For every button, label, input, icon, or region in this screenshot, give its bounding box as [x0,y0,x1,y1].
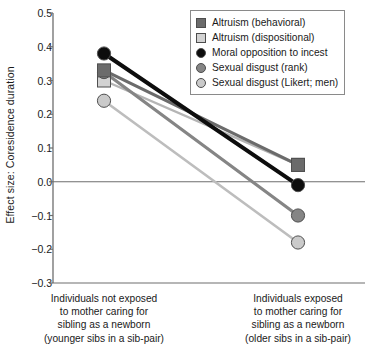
data-point-circle [97,94,110,107]
x-axis-label-line: sibling as a newborn [14,318,194,331]
legend-square-marker-icon [196,33,206,43]
line-chart: Effect size: Coresidence duration 0.50.4… [0,0,367,357]
legend-circle-marker-icon [196,48,206,58]
x-axis-label-line: Individuals not exposed [14,292,194,305]
legend-item-label: Sexual disgust (rank) [212,62,308,73]
x-axis-tick-labels: Individuals not exposedto mother caring … [0,288,367,354]
legend-item[interactable]: Sexual disgust (Likert; men) [196,75,338,90]
x-axis-label-line: Individuals exposed [208,292,367,305]
legend-item-label: Altruism (behavioral) [212,17,305,28]
x-axis-category-label: Individuals exposedto mother caring fors… [208,292,367,345]
x-axis-label-line: (older sibs in a sib-pair) [208,332,367,345]
data-point-square [98,64,111,77]
legend-item[interactable]: Altruism (dispositional) [196,30,338,45]
data-point-circle [97,47,110,60]
legend: Altruism (behavioral)Altruism (dispositi… [190,10,345,95]
legend-item-label: Sexual disgust (Likert; men) [212,77,338,88]
data-point-square [292,158,305,171]
data-point-circle [291,236,304,249]
x-axis-category-label: Individuals not exposedto mother caring … [14,292,194,345]
x-axis-label-line: (younger sibs in a sib-pair) [14,332,194,345]
legend-circle-marker-icon [196,78,206,88]
legend-item[interactable]: Moral opposition to incest [196,45,338,60]
legend-item[interactable]: Sexual disgust (rank) [196,60,338,75]
legend-square-marker-icon [196,18,206,28]
data-point-circle [291,179,304,192]
legend-item-label: Moral opposition to incest [212,47,328,58]
x-axis-label-line: to mother caring for [14,305,194,318]
legend-item[interactable]: Altruism (behavioral) [196,15,338,30]
x-axis-label-line: sibling as a newborn [208,318,367,331]
legend-item-label: Altruism (dispositional) [212,32,314,43]
data-point-circle [291,209,304,222]
x-axis-label-line: to mother caring for [208,305,367,318]
legend-circle-marker-icon [196,63,206,73]
